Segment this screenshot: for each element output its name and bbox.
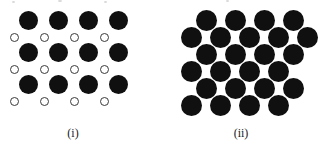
scan-speck — [12, 1, 15, 3]
filled-atom — [225, 44, 246, 65]
open-atom — [100, 33, 109, 42]
filled-atom — [181, 27, 202, 48]
figure-label-panel-ii: (ii) — [234, 126, 249, 140]
open-atom — [40, 97, 49, 106]
filled-atom — [239, 95, 260, 116]
filled-atom — [268, 61, 289, 82]
filled-atom — [19, 75, 38, 94]
filled-atom — [225, 10, 246, 31]
filled-atom — [239, 27, 260, 48]
diagram-canvas: (i)(ii) — [0, 0, 320, 148]
open-atom — [10, 97, 19, 106]
filled-atom — [79, 11, 98, 30]
filled-atom — [254, 10, 275, 31]
scan-speck — [58, 0, 62, 2]
figure-label-panel-i: (i) — [67, 126, 78, 140]
filled-atom — [196, 44, 217, 65]
open-atom — [70, 33, 79, 42]
filled-atom — [49, 11, 68, 30]
filled-atom — [196, 78, 217, 99]
filled-atom — [79, 43, 98, 62]
lattice-figure-group: (i)(ii) — [0, 0, 320, 148]
filled-atom — [79, 75, 98, 94]
open-atom — [10, 65, 19, 74]
filled-atom — [283, 10, 304, 31]
filled-atom — [254, 44, 275, 65]
filled-atom — [225, 78, 246, 99]
filled-atom — [297, 27, 318, 48]
scan-speck — [226, 0, 229, 2]
open-atom — [70, 97, 79, 106]
filled-atom — [109, 43, 128, 62]
scan-speck — [104, 1, 107, 3]
filled-atom — [181, 61, 202, 82]
open-atom — [100, 97, 109, 106]
filled-atom — [19, 11, 38, 30]
open-atom — [10, 33, 19, 42]
filled-atom — [254, 78, 275, 99]
filled-atom — [268, 27, 289, 48]
open-atom — [70, 65, 79, 74]
filled-atom — [181, 95, 202, 116]
filled-atom — [210, 95, 231, 116]
filled-atom — [283, 44, 304, 65]
filled-atom — [268, 95, 289, 116]
filled-atom — [210, 61, 231, 82]
filled-atom — [283, 78, 304, 99]
filled-atom — [196, 10, 217, 31]
open-atom — [40, 33, 49, 42]
filled-atom — [49, 43, 68, 62]
open-atom — [40, 65, 49, 74]
filled-atom — [19, 43, 38, 62]
filled-atom — [109, 11, 128, 30]
filled-atom — [109, 75, 128, 94]
filled-atom — [210, 27, 231, 48]
filled-atom — [49, 75, 68, 94]
open-atom — [100, 65, 109, 74]
filled-atom — [239, 61, 260, 82]
